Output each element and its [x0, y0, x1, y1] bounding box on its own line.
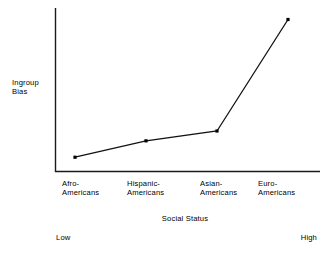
- data-point-marker: [286, 18, 289, 21]
- x-tick-label-asian-americans: Asian-Americans: [200, 179, 264, 198]
- data-point-marker: [215, 129, 218, 132]
- x-tick-label-hispanic-americans: Hispanic-Americans: [127, 179, 191, 198]
- chart-container: IngroupBias Afro-Americans Hispanic-Amer…: [0, 0, 327, 253]
- x-tick-label-euro-americans: Euro-Americans: [258, 179, 322, 198]
- x-axis-anchor-low: Low: [56, 233, 70, 242]
- data-series-line: [75, 19, 288, 157]
- x-tick-label-afro-americans: Afro-Americans: [62, 179, 126, 198]
- x-axis-label: Social Status: [145, 214, 225, 223]
- x-axis-anchor-high: High: [283, 233, 317, 242]
- data-point-marker: [73, 156, 76, 159]
- data-point-marker: [144, 139, 147, 142]
- y-axis-label: IngroupBias: [12, 78, 60, 97]
- data-point-markers: [73, 18, 289, 159]
